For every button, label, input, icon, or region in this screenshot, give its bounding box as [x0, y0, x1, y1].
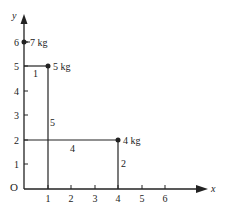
x-tick-label: 1: [46, 193, 51, 204]
mass-label-5kg: 5 kg: [53, 61, 71, 72]
y-tick-label: 5: [14, 61, 19, 72]
x-tick-label: 3: [93, 193, 98, 204]
x-tick-label: 5: [140, 193, 145, 204]
x-axis-label: x: [210, 183, 216, 194]
mass-point-5kg: [46, 64, 51, 69]
segment-label-horizontal: 4: [70, 143, 75, 154]
origin-label: O: [10, 181, 18, 193]
x-tick-label: 6: [163, 193, 168, 204]
y-tick-label: 1: [14, 159, 19, 170]
y-axis-arrow-icon: [21, 14, 28, 24]
y-tick-label: 2: [14, 135, 19, 146]
segment-label-vertical-right: 2: [121, 158, 126, 169]
y-tick-label: 6: [14, 37, 19, 48]
segment-label-vertical-left: 5: [50, 117, 55, 128]
mass-coordinate-diagram: 1 2 3 4 5 6 1 2 3 4 5 6 O x y 1 5 4 2 7 …: [0, 0, 225, 212]
mass-label-7kg: 7 kg: [30, 37, 48, 48]
mass-label-4kg: 4 kg: [123, 135, 141, 146]
x-tick-label: 2: [69, 193, 74, 204]
x-tick-label: 4: [116, 193, 121, 204]
x-axis-arrow-icon: [196, 185, 208, 193]
y-tick-label: 3: [14, 110, 19, 121]
y-axis-label: y: [11, 10, 17, 21]
mass-point-4kg: [116, 138, 121, 143]
y-tick-label: 4: [14, 86, 19, 97]
segment-label-top: 1: [33, 68, 38, 79]
